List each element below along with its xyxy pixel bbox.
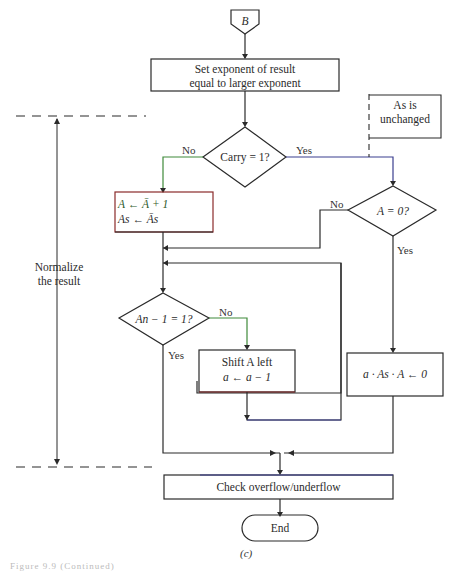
- complement-line2: As ← Ās: [118, 212, 188, 226]
- end-terminal-text: End: [242, 521, 318, 535]
- as-unchanged-line2: unchanged: [369, 112, 441, 126]
- check-overflow-text: Check overflow/underflow: [164, 480, 393, 494]
- a-zero-yes-label: Yes: [397, 244, 413, 256]
- connector-b-label: B: [231, 14, 259, 28]
- msb-no-label: No: [219, 306, 232, 318]
- complement-line1: A ← Ā + 1: [118, 197, 188, 211]
- set-exponent-line2: equal to larger exponent: [151, 76, 339, 90]
- a-zero-no-label: No: [330, 198, 343, 210]
- zero-box-text: a · As · A ← 0: [347, 367, 443, 381]
- shift-line2: a ← a − 1: [199, 370, 295, 384]
- normalize-label-line2: the result: [10, 274, 108, 288]
- msb-decision-text: An − 1 = 1?: [120, 312, 208, 326]
- normalize-label-line1: Normalize: [10, 260, 108, 274]
- set-exponent-line1: Set exponent of result: [151, 62, 339, 76]
- a-zero-decision-text: A = 0?: [352, 204, 434, 218]
- carry-decision-text: Carry = 1?: [203, 150, 287, 164]
- as-unchanged-line1: As is: [369, 98, 441, 112]
- figure-caption: Figure 9.9 (Continued): [10, 561, 115, 571]
- carry-no-label: No: [182, 144, 195, 156]
- msb-yes-label: Yes: [168, 349, 184, 361]
- shift-line1: Shift A left: [199, 355, 295, 369]
- carry-yes-label: Yes: [296, 144, 312, 156]
- subfigure-label: (c): [240, 547, 252, 559]
